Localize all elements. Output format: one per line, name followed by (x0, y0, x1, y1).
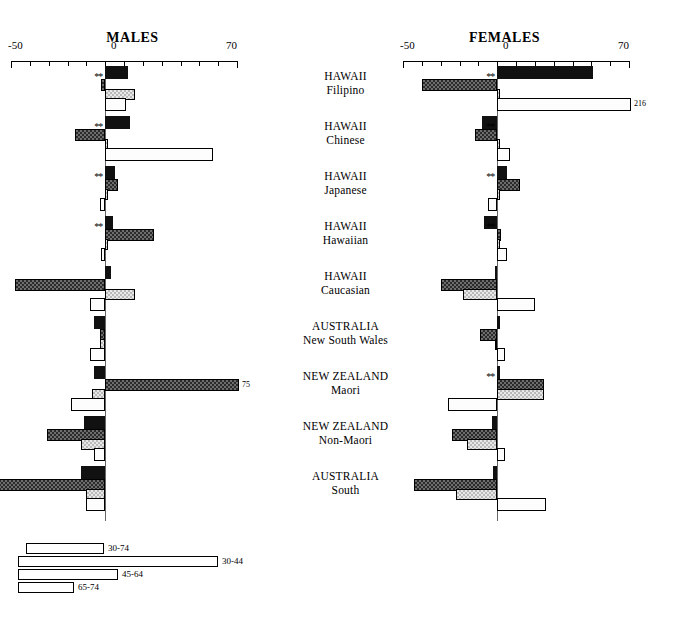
bar-30-74 (81, 466, 105, 479)
bar-30-74 (84, 416, 105, 429)
bar-45-64 (456, 489, 497, 500)
legend-item: 45-64 (18, 569, 158, 580)
category-label-population: Maori (253, 383, 438, 397)
category-label: HAWAIIChinese (253, 119, 438, 147)
bar-65-74 (497, 98, 631, 111)
bar-65-74 (101, 248, 105, 261)
bar-group: 75 (11, 366, 237, 416)
bar-65-74 (448, 398, 497, 411)
category-label: NEW ZEALANDNon-Maori (253, 419, 438, 447)
significance-marker: ** (486, 123, 494, 131)
category-label-population: Caucasian (253, 283, 438, 297)
bar-65-74 (71, 398, 105, 411)
bar-65-74 (497, 298, 535, 311)
significance-marker: ** (486, 223, 494, 231)
category-label: AUSTRALIANew South Wales (253, 319, 438, 347)
significance-marker: ** (486, 73, 494, 81)
category-label: HAWAIIFilipino (253, 69, 438, 97)
legend-swatch-45-64 (18, 569, 118, 580)
bar-group: ** (11, 166, 237, 216)
category-label-population: Chinese (253, 133, 438, 147)
legend-swatch-30-74 (26, 543, 104, 554)
category-label-country: AUSTRALIA (253, 469, 438, 483)
significance-marker: ** (94, 73, 102, 81)
males-axis-tick-min: -50 (8, 39, 23, 51)
significance-marker: ** (94, 123, 102, 131)
category-label-country: HAWAII (253, 269, 438, 283)
legend-item: 30-44 (18, 556, 258, 567)
category-label-population: South (253, 483, 438, 497)
bar-30-74 (105, 266, 111, 279)
category-label-country: HAWAII (253, 219, 438, 233)
bar-30-74 (105, 66, 128, 79)
category-label: NEW ZEALANDMaori (253, 369, 438, 397)
bar-65-74 (86, 498, 105, 511)
chart-legend: 30-7430-4445-6465-74 (18, 543, 278, 603)
bar-30-44 (105, 229, 154, 241)
category-label: HAWAIIHawaiian (253, 219, 438, 247)
category-label-population: New South Wales (253, 333, 438, 347)
category-label-population: Japanese (253, 183, 438, 197)
bar-group: ** (11, 66, 237, 116)
category-label-population: Hawaiian (253, 233, 438, 247)
bar-65-74 (488, 198, 497, 211)
legend-label: 30-44 (222, 555, 243, 567)
bar-45-64 (105, 239, 108, 250)
bar-45-64 (497, 189, 500, 200)
category-label-country: HAWAII (253, 169, 438, 183)
bar-30-74 (94, 316, 105, 329)
bar-30-44 (15, 279, 105, 291)
category-label-population: Filipino (253, 83, 438, 97)
legend-swatch-65-74 (18, 582, 74, 593)
males-axis: -50 0 70 (11, 52, 237, 66)
bar-30-74 (105, 166, 114, 179)
legend-label: 65-74 (78, 581, 99, 593)
males-axis-tick-zero: 0 (111, 39, 117, 51)
bar-group (11, 266, 237, 316)
legend-label: 30-74 (108, 542, 129, 554)
bar-65-74 (105, 148, 212, 161)
bar-group: ** (11, 216, 237, 266)
bar-30-74 (497, 316, 500, 329)
bar-65-74 (90, 298, 105, 311)
females-axis-tick-max: 70 (618, 39, 629, 51)
bar-value-label: 75 (242, 381, 250, 389)
bar-30-74 (497, 166, 506, 179)
bar-65-74 (497, 448, 505, 461)
bar-group: ** (11, 116, 237, 166)
significance-marker: ** (94, 223, 102, 231)
legend-swatch-30-44 (18, 556, 218, 567)
bar-30-74 (497, 366, 500, 379)
category-label-country: NEW ZEALAND (253, 369, 438, 383)
category-label-country: HAWAII (253, 69, 438, 83)
females-axis-tick-min: -50 (400, 39, 415, 51)
bar-30-74 (492, 416, 498, 429)
bar-30-74 (493, 466, 497, 479)
bar-group (11, 416, 237, 466)
bar-value-label: 216 (634, 100, 646, 108)
bar-45-64 (105, 289, 135, 300)
significance-marker: ** (486, 173, 494, 181)
males-axis-tick-max: 70 (226, 39, 237, 51)
bar-65-74 (497, 348, 505, 361)
bar-group (11, 316, 237, 366)
bar-65-74 (90, 348, 105, 361)
bar-30-74 (497, 66, 593, 79)
legend-item: 65-74 (18, 582, 114, 593)
females-axis-tick-zero: 0 (503, 39, 509, 51)
bar-45-64 (463, 289, 497, 300)
bar-65-74 (497, 248, 506, 261)
bar-65-74 (105, 98, 126, 111)
males-axis-tick (237, 61, 238, 68)
bar-45-64 (497, 389, 544, 400)
bar-30-74 (105, 216, 113, 229)
legend-label: 45-64 (122, 568, 143, 580)
bar-30-74 (105, 116, 129, 129)
bar-45-64 (467, 439, 497, 450)
bar-group: 77 (11, 466, 237, 516)
category-label: AUSTRALIASouth (253, 469, 438, 497)
bar-65-74 (497, 148, 510, 161)
category-label: HAWAIICaucasian (253, 269, 438, 297)
legend-item: 30-74 (26, 543, 144, 554)
bar-30-44 (497, 179, 520, 191)
